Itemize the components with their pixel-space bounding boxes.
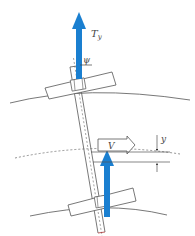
top-rail-curve — [10, 93, 190, 103]
lateral-displacement-label: y — [160, 134, 167, 144]
top-wheel-hub — [70, 78, 86, 91]
force-arrow-top — [72, 12, 86, 79]
force-label: Ty — [91, 28, 103, 41]
centerline-dashed-arc — [15, 148, 180, 158]
velocity-arrow — [98, 136, 135, 154]
yaw-angle-label: ψ — [83, 55, 91, 65]
wheelset-diagram: Ty ψ V y — [0, 0, 195, 236]
